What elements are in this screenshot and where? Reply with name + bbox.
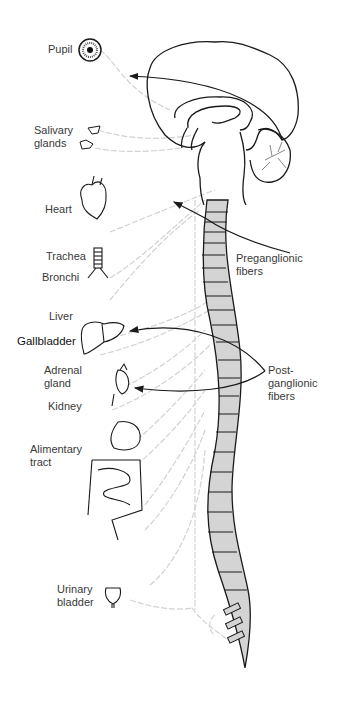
label-liver: Liver	[49, 310, 73, 323]
label-alimentary-1: Alimentary	[30, 443, 82, 456]
label-salivary-1: Salivary	[34, 124, 73, 137]
label-pupil: Pupil	[48, 43, 72, 56]
adrenal-kidney-icon	[112, 364, 129, 406]
label-bladder-2: bladder	[57, 596, 94, 609]
nerve-fibers	[95, 50, 228, 640]
label-bronchi: Bronchi	[42, 271, 79, 284]
label-heart: Heart	[45, 203, 72, 216]
label-postganglionic-1: Post-	[268, 364, 294, 377]
label-gallbladder: Gallbladder	[17, 335, 76, 348]
label-postganglionic-2: ganglionic	[268, 377, 318, 390]
label-adrenal-1: Adrenal	[44, 364, 82, 377]
label-preganglionic-2: fibers	[236, 265, 263, 278]
label-salivary-2: glands	[34, 137, 66, 150]
label-trachea: Trachea	[46, 250, 86, 263]
label-alimentary-2: tract	[30, 456, 51, 469]
label-preganglionic-1: Preganglionic	[236, 252, 303, 265]
label-adrenal-2: gland	[44, 377, 71, 390]
pupil-icon	[79, 39, 101, 61]
nervous-system-diagram	[0, 0, 338, 706]
trachea-bronchi-icon	[88, 248, 108, 278]
urinary-bladder-icon	[105, 588, 120, 608]
label-kidney: Kidney	[48, 400, 82, 413]
liver-gallbladder-icon	[81, 322, 124, 354]
alimentary-tract-icon	[88, 422, 142, 540]
heart-icon	[81, 176, 106, 219]
label-postganglionic-3: fibers	[268, 390, 295, 403]
salivary-glands-icon	[80, 126, 100, 149]
postganglionic-arcs	[130, 328, 265, 391]
label-bladder-1: Urinary	[57, 583, 92, 596]
brain	[147, 42, 298, 205]
